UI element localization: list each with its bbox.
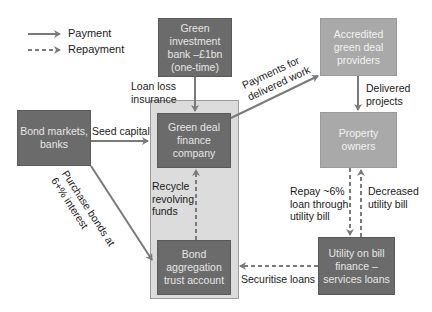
node-bond-markets: Bond markets, banks [17,110,91,166]
edge-label-seed-capital: Seed capital [92,125,150,138]
node-bond-aggregation: Bond aggregation trust account [157,240,231,295]
legend-repayment-label: Repayment [68,43,124,55]
edge-label-decreased-bill: Decreased utility bill [368,185,432,210]
node-green-investment-bank: Green investment bank –£1bn (one-time) [158,18,232,77]
node-label: Accredited green deal providers [323,28,394,67]
node-label: Green investment bank –£1bn (one-time) [161,22,229,74]
edge-label-securitise: Securitise loans [241,273,315,286]
node-label: Bond markets, banks [20,125,88,151]
edge-label-loan-loss: Loan loss insurance [131,80,191,105]
edge-label-delivered-projects: Delivered projects [366,82,421,107]
node-label: Property owners [323,127,394,153]
edge-label-repay-loan: Repay ~6% loan through utility bill [290,185,350,223]
node-label: Green deal finance company [160,121,228,160]
node-label: Utility on bill finance – services loans [321,247,392,286]
node-finance-company: Green deal finance company [157,113,231,168]
node-property-owners: Property owners [320,112,397,168]
node-utility: Utility on bill finance – services loans [318,237,395,295]
edge-label-recycle-funds: Recycle revolving funds [152,180,197,218]
node-label: Bond aggregation trust account [160,248,228,287]
node-accredited-providers: Accredited green deal providers [320,18,397,76]
legend-payment-label: Payment [68,27,111,39]
